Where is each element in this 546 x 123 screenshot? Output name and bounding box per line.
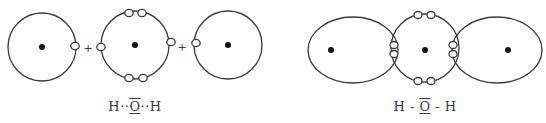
water-formation-diagram: + + bbox=[0, 0, 546, 123]
shared-electron bbox=[449, 42, 457, 49]
formula-oxygen: O bbox=[419, 101, 430, 114]
electron bbox=[192, 39, 200, 46]
formula-left: H·· bbox=[108, 99, 129, 114]
oxygen-nucleus bbox=[132, 42, 138, 48]
left-diagram-separate-atoms bbox=[8, 9, 262, 81]
plus-sign: + bbox=[177, 41, 186, 54]
shared-electron bbox=[390, 51, 398, 58]
hydrogen-nucleus-right bbox=[505, 47, 511, 53]
electron bbox=[167, 38, 175, 45]
electron bbox=[427, 12, 435, 19]
formula-right: ··H bbox=[141, 99, 162, 114]
electron bbox=[125, 9, 133, 16]
shared-electron bbox=[449, 51, 457, 58]
oxygen-nucleus bbox=[422, 47, 428, 53]
right-formula-label: H - O - H bbox=[393, 99, 456, 114]
electron bbox=[97, 43, 105, 50]
left-formula-label: H··O··H bbox=[108, 99, 161, 114]
electron bbox=[414, 78, 422, 85]
hydrogen-nucleus bbox=[39, 44, 45, 50]
formula-oxygen: O bbox=[129, 101, 140, 114]
hydrogen-nucleus-left bbox=[328, 47, 334, 53]
oxygen-atom bbox=[97, 9, 175, 81]
electron bbox=[427, 78, 435, 85]
hydrogen-nucleus bbox=[225, 42, 231, 48]
electron bbox=[138, 9, 146, 16]
formula-right: - H bbox=[431, 99, 457, 114]
plus-sign: + bbox=[83, 42, 92, 55]
hydrogen-orbital-left bbox=[308, 17, 398, 83]
hydrogen-atom-right bbox=[192, 11, 262, 79]
electron bbox=[414, 12, 422, 19]
electron bbox=[125, 74, 133, 81]
electron bbox=[139, 74, 147, 81]
formula-left: H - bbox=[393, 99, 419, 114]
shared-electron bbox=[390, 42, 398, 49]
hydrogen-orbital-right bbox=[452, 17, 542, 83]
hydrogen-atom-left bbox=[8, 13, 79, 81]
right-diagram-water-molecule bbox=[308, 12, 542, 85]
electron bbox=[71, 42, 79, 49]
